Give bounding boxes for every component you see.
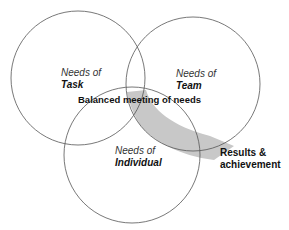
task-label-line1: Needs of <box>61 67 101 79</box>
outcome-label-line1: Results & <box>220 147 281 159</box>
venn-diagram <box>0 0 289 230</box>
outcome-label: Results & achievement <box>220 147 281 171</box>
team-label: Needs of Team <box>176 68 216 92</box>
team-label-line2: Team <box>176 80 216 92</box>
individual-label-line2: Individual <box>115 157 162 169</box>
outcome-label-line2: achievement <box>220 159 281 171</box>
team-label-line1: Needs of <box>176 68 216 80</box>
individual-label: Needs of Individual <box>115 145 162 169</box>
individual-label-line1: Needs of <box>115 145 162 157</box>
center-label: Balanced meeting of needs <box>78 94 201 106</box>
task-label: Needs of Task <box>61 67 101 91</box>
task-label-line2: Task <box>61 79 101 91</box>
